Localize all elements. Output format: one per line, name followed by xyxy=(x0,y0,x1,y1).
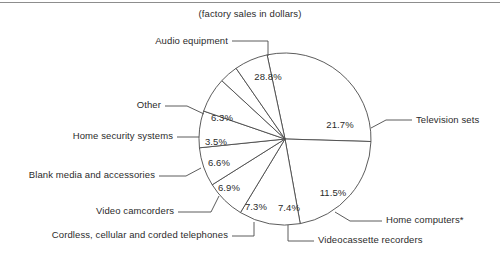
pct-label-home-security-systems: 3.5% xyxy=(205,136,227,147)
leader-blank-media xyxy=(159,168,201,176)
leader-videocassette-recorders xyxy=(288,225,314,241)
category-label-videocassette-recorders: Videocassette recorders xyxy=(318,234,423,245)
pie-chart-figure: (factory sales in dollars) 28.8% 21.7% 1… xyxy=(0,0,500,259)
leader-other xyxy=(165,106,204,114)
pct-label-other: 6.3% xyxy=(211,112,233,123)
category-label-blank-media: Blank media and accessories xyxy=(29,169,155,180)
category-label-television-sets: Television sets xyxy=(416,114,479,125)
pct-label-television-sets: 21.7% xyxy=(326,119,353,130)
pct-label-video-camcorders: 6.9% xyxy=(218,182,240,193)
pct-label-blank-media: 6.6% xyxy=(208,157,230,168)
category-label-home-security-systems: Home security systems xyxy=(73,130,173,141)
leader-home-computers xyxy=(335,212,382,221)
pct-label-audio-equipment: 28.8% xyxy=(254,71,281,82)
pct-label-home-computers: 11.5% xyxy=(320,187,347,198)
category-label-home-computers: Home computers* xyxy=(386,214,464,225)
category-label-other: Other xyxy=(137,99,161,110)
pct-label-telephones: 7.3% xyxy=(245,201,267,212)
leader-television-sets xyxy=(371,120,412,128)
leader-audio-equipment xyxy=(232,41,268,56)
category-label-telephones: Cordless, cellular and corded telephones xyxy=(52,229,228,240)
pct-label-videocassette-recorders: 7.4% xyxy=(278,202,300,213)
leader-video-camcorders xyxy=(178,196,219,212)
category-label-video-camcorders: Video camcorders xyxy=(96,205,174,216)
leader-telephones xyxy=(232,222,254,236)
category-label-audio-equipment: Audio equipment xyxy=(155,35,228,46)
